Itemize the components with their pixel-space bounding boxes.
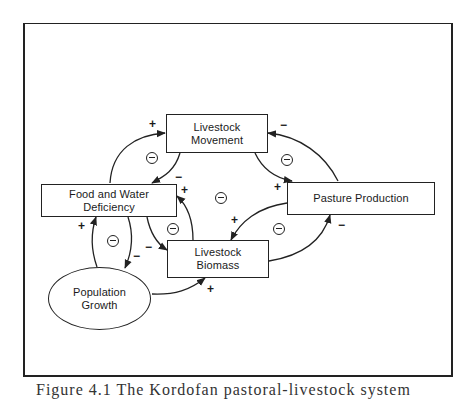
loop-marker-negative-icon (273, 223, 285, 235)
edge-biomass-to-food (177, 196, 193, 240)
sign-plus-population-food: + (78, 220, 85, 232)
sign-minus-food-population: − (133, 250, 140, 262)
loop-marker-negative-icon (281, 154, 293, 166)
node-label: Biomass (197, 259, 240, 272)
node-label: Deficiency (83, 201, 135, 214)
node-food-water-deficiency: Food and Water Deficiency (41, 184, 177, 217)
loop-marker-negative-icon (167, 223, 179, 235)
edge-population-to-food (92, 217, 97, 267)
node-population-growth: Population Growth (48, 267, 151, 330)
node-label: Pasture Production (313, 192, 408, 205)
edge-population-to-biomass (152, 278, 205, 294)
sign-minus-biomass-pasture: − (338, 219, 345, 231)
node-label: Food and Water (69, 188, 149, 201)
sign-minus-pasture-movement: − (280, 119, 287, 131)
node-label: Livestock (195, 246, 242, 259)
sign-minus-movement-food: − (175, 171, 182, 183)
edge-biomass-to-pasture (269, 215, 330, 261)
sign-plus-pasture-biomass: + (231, 214, 238, 226)
node-label: Livestock (194, 121, 241, 134)
sign-plus-biomass-food: + (181, 184, 188, 196)
edge-food-to-population (125, 217, 132, 268)
loop-marker-negative-icon (146, 152, 158, 164)
loop-marker-negative-icon (107, 235, 119, 247)
sign-minus-food-biomass: − (145, 241, 152, 253)
sign-plus-movement-pasture: + (274, 181, 281, 193)
node-label: Growth (81, 299, 117, 312)
sign-plus-food-movement: + (149, 118, 156, 130)
loop-marker-negative-icon (215, 192, 227, 204)
edge-pasture-to-movement (268, 133, 338, 181)
node-livestock-biomass: Livestock Biomass (167, 240, 269, 278)
figure-caption: Figure 4.1 The Kordofan pastoral-livesto… (36, 381, 411, 399)
node-pasture-production: Pasture Production (287, 182, 435, 215)
sign-plus-population-biomass: + (207, 283, 214, 295)
node-livestock-movement: Livestock Movement (166, 114, 268, 153)
node-label: Population (73, 286, 126, 299)
node-label: Movement (191, 134, 243, 147)
